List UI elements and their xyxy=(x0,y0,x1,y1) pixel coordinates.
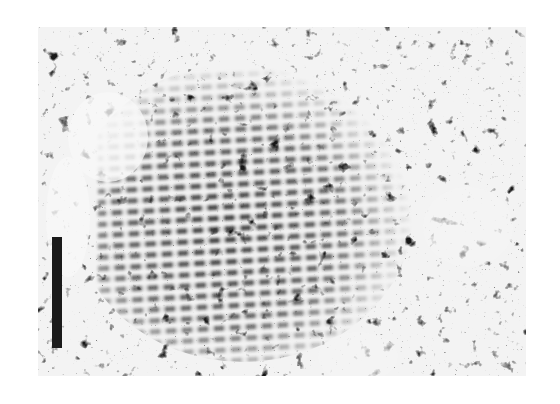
micrograph-image xyxy=(38,27,526,376)
micrograph-figure xyxy=(0,0,560,404)
scale-bar xyxy=(52,237,62,348)
